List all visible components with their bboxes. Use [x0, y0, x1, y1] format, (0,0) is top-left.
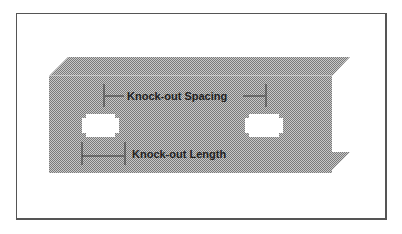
strut-drawing — [0, 0, 402, 234]
strut-top-face — [49, 57, 350, 76]
knockout-right — [245, 114, 283, 137]
strut-bottom-flange — [332, 152, 350, 170]
knockout-spacing-label: Knock-out Spacing — [127, 90, 227, 102]
knockout-left — [82, 114, 119, 137]
knockout-length-label: Knock-out Length — [132, 148, 226, 160]
